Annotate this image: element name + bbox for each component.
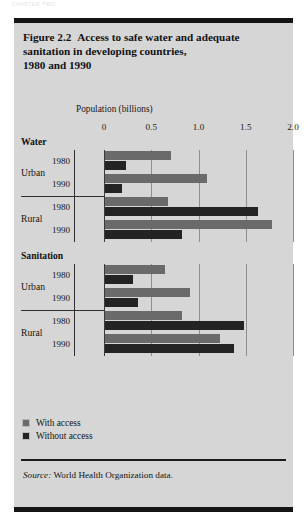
bar-with-access-water-rural-1980 [105, 197, 168, 206]
x-axis-title: Population (billions) [76, 104, 153, 114]
bar-without-access-water-urban-1990 [105, 184, 122, 193]
group-label-sanitation-urban: Urban [21, 281, 45, 292]
section-label-sanitation: Sanitation [21, 250, 63, 261]
x-tick-label-1.0: 1.0 [193, 122, 204, 132]
figure-title: Figure 2.2Access to safe water and adequ… [23, 30, 289, 73]
bar-without-access-sanitation-urban-1990 [105, 298, 138, 307]
year-label-water-rural-1990: 1990 [40, 225, 70, 235]
legend-label-without-access: Without access [36, 431, 93, 441]
group-divider [21, 310, 104, 311]
chart-plot-area: 00.51.01.52.0 WaterUrban19801990Rural198… [14, 122, 293, 412]
bar-with-access-water-rural-1990 [105, 220, 272, 229]
bar-without-access-water-rural-1980 [105, 207, 258, 216]
legend-swatch-without-access [22, 432, 30, 440]
figure-title-line2: sanitation in developing countries, [23, 45, 186, 57]
legend-swatch-with-access [22, 419, 30, 427]
section-label-water: Water [21, 136, 47, 147]
year-label-sanitation-rural-1990: 1990 [40, 339, 70, 349]
figure-panel: Figure 2.2Access to safe water and adequ… [14, 18, 293, 512]
bar-with-access-sanitation-urban-1990 [105, 288, 190, 297]
group-label-sanitation-rural: Rural [21, 327, 42, 338]
group-label-water-urban: Urban [21, 167, 45, 178]
legend-label-with-access: With access [36, 418, 81, 428]
bar-without-access-sanitation-rural-1980 [105, 321, 244, 330]
group-divider [21, 196, 104, 197]
bottom-rule [14, 507, 293, 512]
bar-with-access-sanitation-urban-1980 [105, 265, 165, 274]
figure-number: Figure 2.2 [23, 31, 71, 43]
year-label-sanitation-rural-1980: 1980 [40, 316, 70, 326]
figure-title-line3: 1980 and 1990 [23, 59, 91, 71]
bar-with-access-water-urban-1980 [105, 151, 171, 160]
top-rule [14, 18, 293, 23]
bar-without-access-water-urban-1980 [105, 161, 126, 170]
bar-with-access-sanitation-rural-1990 [105, 334, 220, 343]
year-label-sanitation-urban-1990: 1990 [40, 293, 70, 303]
x-tick-label-0: 0 [102, 122, 107, 132]
figure-title-line1: Access to safe water and adequate [77, 31, 239, 43]
bar-without-access-sanitation-urban-1980 [105, 275, 133, 284]
year-label-sanitation-urban-1980: 1980 [40, 270, 70, 280]
figure-source: Source: World Health Organization data. [23, 470, 173, 480]
year-label-water-urban-1990: 1990 [40, 179, 70, 189]
x-axis-ticks: 00.51.01.52.0 [14, 122, 293, 136]
x-tick-label-1.5: 1.5 [240, 122, 251, 132]
x-tick-label-0.5: 0.5 [146, 122, 157, 132]
bar-without-access-sanitation-rural-1990 [105, 344, 234, 353]
x-tick-label-2.0: 2.0 [287, 122, 298, 132]
page-running-header: CHAPTER TWO [12, 1, 55, 7]
bar-with-access-water-urban-1990 [105, 174, 207, 183]
gridline-1.5 [246, 264, 247, 356]
source-text: World Health Organization data. [53, 470, 173, 480]
legend-item-with-access: With access [22, 416, 222, 429]
source-label: Source: [23, 470, 51, 480]
gridline-2 [293, 150, 294, 242]
chart-legend: With access Without access [22, 416, 222, 442]
legend-item-without-access: Without access [22, 429, 222, 442]
bar-with-access-sanitation-rural-1980 [105, 311, 182, 320]
year-label-water-urban-1980: 1980 [40, 156, 70, 166]
group-label-water-rural: Rural [21, 213, 42, 224]
source-divider-rule [21, 459, 286, 461]
bar-without-access-water-rural-1990 [105, 230, 182, 239]
year-label-water-rural-1980: 1980 [40, 202, 70, 212]
gridline-2 [293, 264, 294, 356]
